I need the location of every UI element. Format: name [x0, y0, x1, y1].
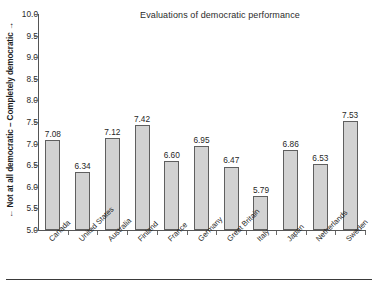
x-axis-tick-mark	[68, 231, 69, 235]
bar-value-label: 7.08	[45, 129, 61, 139]
y-axis-tick-label: 5.5	[0, 203, 38, 213]
x-axis-tick-mark	[97, 231, 98, 235]
bar-value-label: 6.86	[283, 139, 299, 149]
y-axis-tick-label: 9.5	[0, 31, 38, 41]
bar	[45, 140, 60, 230]
plot-area: 7.086.347.127.426.606.956.475.796.866.53…	[38, 14, 365, 230]
bar	[135, 125, 150, 230]
x-axis-tick-mark	[276, 231, 277, 235]
chart-screenshot: Evaluations of democratic performance ← …	[0, 0, 378, 286]
bar-value-label: 6.95	[193, 135, 209, 145]
x-axis-tick-mark	[127, 231, 128, 235]
bar-value-label: 7.42	[134, 114, 150, 124]
bar-value-label: 7.53	[342, 110, 358, 120]
bar	[224, 167, 239, 231]
x-axis-tick-mark	[306, 231, 307, 235]
bar	[194, 146, 209, 230]
y-axis-tick-label: 7.5	[0, 117, 38, 127]
bottom-divider	[6, 279, 372, 280]
bar-value-label: 6.34	[75, 161, 91, 171]
y-axis-tick-label: 8.5	[0, 74, 38, 84]
bar	[75, 172, 90, 230]
y-axis-tick-label: 6.0	[0, 182, 38, 192]
bar-value-label: 6.60	[164, 150, 180, 160]
y-axis-tick-label: 5.0	[0, 225, 38, 235]
y-axis-tick-label: 6.5	[0, 160, 38, 170]
y-axis-tick-label: 9.0	[0, 52, 38, 62]
y-axis-tick-label: 10.0	[0, 9, 38, 19]
x-axis-tick-mark	[216, 231, 217, 235]
bar-value-label: 7.12	[104, 127, 120, 137]
bar	[164, 161, 179, 230]
x-axis-tick-mark	[246, 231, 247, 235]
bar-value-label: 5.79	[253, 185, 269, 195]
x-axis-tick-mark	[365, 231, 366, 235]
bar	[283, 150, 298, 230]
y-axis-tick-mark	[34, 230, 38, 231]
y-axis-tick-label: 7.0	[0, 139, 38, 149]
x-axis-tick-mark	[157, 231, 158, 235]
bar-value-label: 6.53	[312, 153, 328, 163]
y-axis-tick-label: 8.0	[0, 95, 38, 105]
x-axis-tick-mark	[187, 231, 188, 235]
x-axis-tick-mark	[335, 231, 336, 235]
bar-value-label: 6.47	[223, 155, 239, 165]
bar	[313, 164, 328, 230]
